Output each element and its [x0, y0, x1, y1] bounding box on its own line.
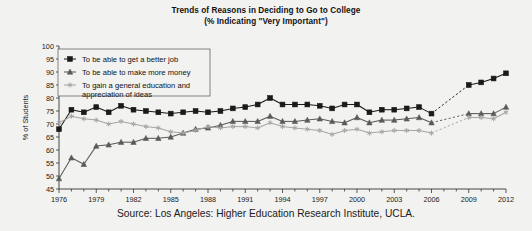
- y-axis-tick-label: 55: [46, 159, 54, 168]
- square-marker: [81, 110, 86, 115]
- square-marker: [417, 105, 422, 110]
- square-marker: [342, 102, 347, 107]
- chart-plot-area: 4550556065707580859095100% of Students19…: [0, 0, 532, 231]
- square-marker: [504, 71, 509, 76]
- square-marker: [94, 105, 99, 110]
- square-marker: [268, 96, 273, 101]
- y-axis-tick-label: 90: [46, 68, 54, 77]
- legend-label: To be able to make more money: [82, 68, 191, 77]
- x-axis-tick-label: 1985: [163, 195, 179, 204]
- x-axis-tick-label: 1979: [88, 195, 104, 204]
- square-marker: [367, 110, 372, 115]
- series-2: [56, 104, 508, 181]
- square-marker: [243, 105, 248, 110]
- x-axis-tick-label: 1982: [125, 195, 141, 204]
- chart-source-note: Source: Los Angeles: Higher Education Re…: [0, 208, 532, 219]
- square-marker: [69, 107, 74, 112]
- series-segment-dashed: [432, 85, 469, 114]
- legend-label: To be able to get a better job: [82, 55, 178, 64]
- x-axis-tick-label: 1976: [51, 195, 67, 204]
- y-axis-tick-label: 50: [46, 172, 54, 181]
- square-marker: [466, 83, 471, 88]
- legend-label: To gain a general education and: [82, 81, 190, 90]
- chart-legend: To be able to get a better jobTo be able…: [58, 49, 210, 99]
- square-marker: [330, 106, 335, 111]
- square-marker: [392, 107, 397, 112]
- square-marker: [144, 109, 149, 114]
- square-marker: [218, 109, 223, 114]
- y-axis-tick-label: 95: [46, 55, 54, 64]
- x-axis-tick-label: 1994: [274, 195, 290, 204]
- square-marker: [68, 57, 73, 62]
- square-marker: [355, 102, 360, 107]
- square-marker: [491, 76, 496, 81]
- y-axis-tick-label: 65: [46, 133, 54, 142]
- square-marker: [131, 107, 136, 112]
- square-marker: [106, 110, 111, 115]
- y-axis-tick-label: 45: [46, 185, 54, 194]
- square-marker: [379, 107, 384, 112]
- legend-item-better-job[interactable]: To be able to get a better job: [64, 55, 178, 64]
- legend-item-more-money[interactable]: To be able to make more money: [64, 68, 191, 77]
- y-axis-title: % of Students: [21, 94, 30, 140]
- x-axis-tick-label: 1988: [200, 195, 216, 204]
- x-axis-tick-label: 2003: [386, 195, 402, 204]
- square-marker: [280, 102, 285, 107]
- triangle-marker: [354, 115, 359, 120]
- square-marker: [293, 102, 298, 107]
- triangle-marker: [267, 113, 272, 118]
- triangle-marker: [56, 176, 61, 181]
- x-axis-tick-label: 2012: [498, 195, 514, 204]
- square-marker: [230, 106, 235, 111]
- triangle-marker: [69, 155, 74, 160]
- chart-figure: Trends of Reasons in Deciding to Go to C…: [0, 0, 532, 231]
- x-axis-tick-label: 1991: [237, 195, 253, 204]
- y-axis-tick-label: 75: [46, 107, 54, 116]
- square-marker: [181, 110, 186, 115]
- triangle-marker: [416, 115, 421, 120]
- star-marker: [504, 110, 508, 115]
- legend-label: appreciation of ideas: [82, 90, 152, 99]
- x-axis-tick-label: 2000: [349, 195, 365, 204]
- x-axis-tick-label: 2009: [461, 195, 477, 204]
- series-segment: [84, 146, 96, 164]
- series-segment-dashed: [432, 118, 469, 134]
- x-axis-tick-label: 2006: [423, 195, 439, 204]
- triangle-marker: [503, 104, 508, 109]
- square-marker: [479, 80, 484, 85]
- square-marker: [119, 103, 124, 108]
- y-axis-tick-label: 85: [46, 81, 54, 90]
- y-axis-tick-label: 100: [42, 42, 54, 51]
- y-axis-tick-label: 60: [46, 146, 54, 155]
- x-axis-tick-label: 1997: [312, 195, 328, 204]
- y-axis-tick-label: 70: [46, 120, 54, 129]
- square-marker: [156, 110, 161, 115]
- square-marker: [57, 127, 62, 132]
- square-marker: [305, 102, 310, 107]
- square-marker: [255, 102, 260, 107]
- square-marker: [168, 111, 173, 116]
- square-marker: [317, 103, 322, 108]
- y-axis-tick-label: 80: [46, 94, 54, 103]
- square-marker: [206, 110, 211, 115]
- square-marker: [193, 109, 198, 114]
- star-marker: [57, 120, 61, 125]
- square-marker: [404, 106, 409, 111]
- series-segment-dashed: [432, 114, 469, 123]
- square-marker: [429, 111, 434, 116]
- series-segment: [59, 158, 71, 179]
- triangle-marker: [317, 116, 322, 121]
